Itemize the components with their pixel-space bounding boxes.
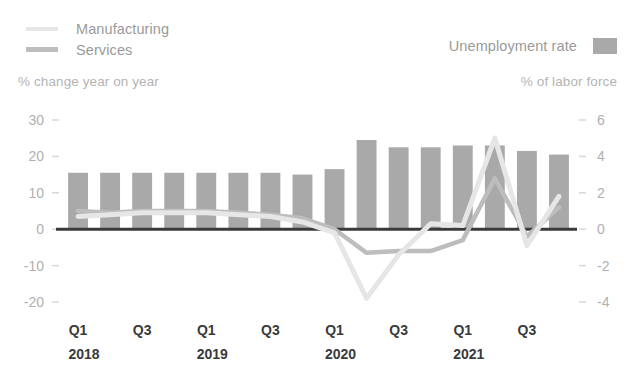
manufacturing-line-swatch <box>26 27 58 31</box>
y-tick-label: 20 <box>28 148 44 164</box>
x-tick-quarter: Q3 <box>389 322 408 338</box>
chart-page: Manufacturing Services Unemployment rate… <box>0 0 637 386</box>
y2-tick-label: -4 <box>597 294 610 310</box>
unemployment-bar-swatch <box>593 38 617 54</box>
x-tick-quarter: Q1 <box>197 322 216 338</box>
legend-right: Unemployment rate <box>449 38 617 54</box>
x-tick-year: 2020 <box>325 346 356 362</box>
y2-tick-label: 4 <box>597 148 605 164</box>
x-tick-quarter: Q1 <box>69 322 88 338</box>
bar-unemployment-rate <box>453 145 473 229</box>
bar-unemployment-rate <box>68 173 88 229</box>
y-tick-label: 30 <box>28 112 44 128</box>
x-tick-quarter: Q3 <box>261 322 280 338</box>
x-tick-quarter: Q3 <box>518 322 537 338</box>
bar-unemployment-rate <box>196 173 216 229</box>
bar-unemployment-rate <box>389 147 409 229</box>
chart-plot-area: 3020100-10-206420-2-4 <box>0 104 637 316</box>
bar-unemployment-rate <box>325 169 345 229</box>
bar-unemployment-rate <box>164 173 184 229</box>
x-tick-quarter: Q1 <box>453 322 472 338</box>
y-tick-label: 10 <box>28 185 44 201</box>
bar-unemployment-rate <box>228 173 248 229</box>
y-tick-label: -10 <box>24 258 44 274</box>
bar-unemployment-rate <box>357 140 377 229</box>
y2-tick-label: 6 <box>597 112 605 128</box>
x-axis-labels: Q1Q3Q1Q3Q1Q3Q1Q32018201920202021 <box>0 322 637 382</box>
legend-item-manufacturing: Manufacturing <box>26 18 169 39</box>
y2-tick-label: 0 <box>597 221 605 237</box>
legend-label-services: Services <box>76 42 132 58</box>
x-tick-year: 2018 <box>68 346 99 362</box>
bar-unemployment-rate <box>549 155 569 230</box>
bar-unemployment-rate <box>260 173 280 229</box>
legend-label-unemployment: Unemployment rate <box>449 38 577 54</box>
bar-unemployment-rate <box>100 173 120 229</box>
bar-unemployment-rate <box>421 147 441 229</box>
x-tick-year: 2019 <box>197 346 228 362</box>
x-tick-quarter: Q1 <box>325 322 344 338</box>
x-tick-quarter: Q3 <box>133 322 152 338</box>
legend-item-services: Services <box>26 39 169 60</box>
right-axis-caption: % of labor force <box>521 74 617 89</box>
y-tick-label: -20 <box>24 294 44 310</box>
y2-tick-label: 2 <box>597 185 605 201</box>
y2-tick-label: -2 <box>597 258 610 274</box>
y-tick-label: 0 <box>36 221 44 237</box>
legend-left: Manufacturing Services <box>26 18 169 60</box>
bar-unemployment-rate <box>132 173 152 229</box>
left-axis-caption: % change year on year <box>18 74 159 89</box>
legend-label-manufacturing: Manufacturing <box>76 21 169 37</box>
services-line-swatch <box>26 47 58 52</box>
x-tick-year: 2021 <box>453 346 484 362</box>
